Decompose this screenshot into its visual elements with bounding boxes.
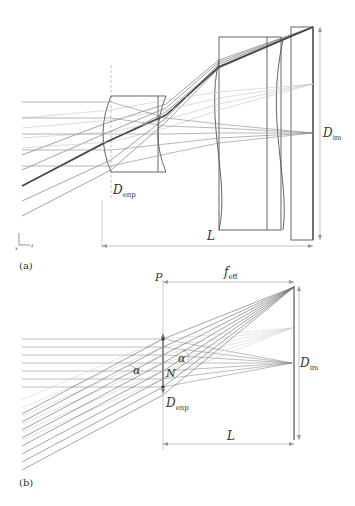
panel-a: Dim Denp L z x (a)	[15, 27, 342, 271]
label-l-a: L	[206, 229, 215, 243]
panel-b: P feff Dim	[19, 265, 319, 488]
rays-mid-field-b	[22, 328, 292, 440]
label-denp-b: Denp	[165, 396, 189, 412]
lens-group-2	[215, 37, 285, 230]
label-n: N	[165, 367, 176, 380]
svg-text:x: x	[15, 245, 18, 251]
label-dim-b: Dim	[299, 356, 319, 372]
svg-text:z: z	[30, 242, 34, 248]
label-l-b: L	[226, 429, 235, 443]
axes-icon	[19, 233, 30, 245]
rays-axis	[22, 102, 313, 166]
label-p: P	[154, 271, 163, 284]
label-alpha-left: α	[133, 364, 141, 377]
rays-top-field-b	[22, 287, 294, 470]
optical-diagram: Dim Denp L z x (a) P feff Dim	[0, 0, 355, 506]
label-denp-a: Denp	[112, 183, 136, 199]
rays-axis-b	[22, 339, 292, 387]
label-alpha-right: α	[178, 352, 186, 365]
caption-a: (a)	[19, 260, 33, 271]
caption-b: (b)	[19, 477, 33, 488]
label-dim-a: Dim	[322, 126, 342, 142]
label-feff: feff	[223, 265, 239, 281]
rays-top-field	[22, 27, 313, 216]
